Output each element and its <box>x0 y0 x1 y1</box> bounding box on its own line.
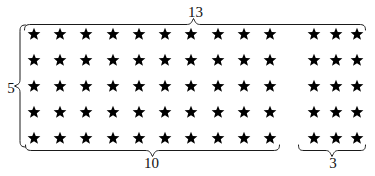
star-symbol <box>106 53 120 67</box>
star-symbol <box>132 79 146 93</box>
star-symbol <box>132 131 146 145</box>
bottom-left-brace-label-text: 10 <box>144 155 159 171</box>
star-symbol <box>53 105 67 119</box>
star-symbol <box>27 131 41 145</box>
star-symbol <box>132 27 146 41</box>
star-symbol <box>27 53 41 67</box>
star-group-left <box>27 105 277 119</box>
star-symbol <box>158 79 172 93</box>
star-symbol <box>106 131 120 145</box>
star-row <box>24 131 366 145</box>
star-symbol <box>211 131 225 145</box>
star-symbol <box>158 131 172 145</box>
star-symbol <box>79 131 93 145</box>
star-group-right <box>307 131 364 145</box>
star-symbol <box>184 79 198 93</box>
star-symbol <box>106 27 120 41</box>
star-symbol <box>307 53 321 67</box>
bottom-right-brace-label-text: 3 <box>329 155 337 171</box>
star-symbol <box>27 27 41 41</box>
star-symbol <box>237 53 251 67</box>
star-symbol <box>263 131 277 145</box>
star-group-right <box>307 105 364 119</box>
star-grid <box>24 27 366 145</box>
star-row <box>24 27 366 41</box>
star-group-left <box>27 131 277 145</box>
star-symbol <box>132 105 146 119</box>
star-symbol <box>27 79 41 93</box>
star-symbol <box>307 79 321 93</box>
star-symbol <box>79 53 93 67</box>
star-symbol <box>329 105 343 119</box>
star-symbol <box>158 53 172 67</box>
star-row <box>24 79 366 93</box>
star-symbol <box>53 27 67 41</box>
star-symbol <box>350 105 364 119</box>
left-brace-label: 5 <box>4 81 18 96</box>
star-symbol <box>211 105 225 119</box>
star-array-figure: 13 5 10 3 <box>0 0 375 176</box>
star-symbol <box>307 131 321 145</box>
star-symbol <box>158 105 172 119</box>
star-group-right <box>307 53 364 67</box>
star-symbol <box>263 105 277 119</box>
star-symbol <box>329 53 343 67</box>
star-symbol <box>329 131 343 145</box>
bottom-left-brace-label: 10 <box>0 156 303 171</box>
star-symbol <box>184 27 198 41</box>
star-symbol <box>350 27 364 41</box>
star-symbol <box>329 27 343 41</box>
star-symbol <box>263 53 277 67</box>
star-symbol <box>211 27 225 41</box>
star-symbol <box>211 53 225 67</box>
star-symbol <box>329 79 343 93</box>
star-symbol <box>27 105 41 119</box>
star-group-left <box>27 79 277 93</box>
star-symbol <box>263 79 277 93</box>
star-symbol <box>79 105 93 119</box>
star-row <box>24 53 366 67</box>
star-group-right <box>307 27 364 41</box>
star-group-left <box>27 27 277 41</box>
star-symbol <box>79 27 93 41</box>
star-symbol <box>53 53 67 67</box>
star-symbol <box>211 79 225 93</box>
left-brace-label-text: 5 <box>7 80 15 96</box>
top-brace-label-text: 13 <box>188 4 203 20</box>
star-symbol <box>237 79 251 93</box>
star-symbol <box>53 131 67 145</box>
star-symbol <box>263 27 277 41</box>
star-symbol <box>237 105 251 119</box>
star-symbol <box>184 131 198 145</box>
star-symbol <box>307 27 321 41</box>
top-brace-label: 13 <box>0 5 375 20</box>
star-symbol <box>132 53 146 67</box>
star-symbol <box>158 27 172 41</box>
star-row <box>24 105 366 119</box>
star-symbol <box>350 131 364 145</box>
star-symbol <box>350 53 364 67</box>
star-symbol <box>237 27 251 41</box>
star-symbol <box>307 105 321 119</box>
star-symbol <box>184 105 198 119</box>
star-symbol <box>237 131 251 145</box>
star-symbol <box>350 79 364 93</box>
star-symbol <box>53 79 67 93</box>
star-symbol <box>106 105 120 119</box>
star-symbol <box>106 79 120 93</box>
star-symbol <box>79 79 93 93</box>
star-group-left <box>27 53 277 67</box>
bottom-right-brace-label: 3 <box>299 156 367 171</box>
star-symbol <box>184 53 198 67</box>
star-group-right <box>307 79 364 93</box>
